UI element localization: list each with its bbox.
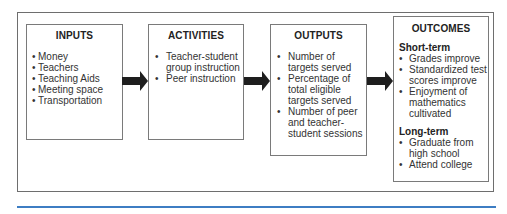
bullet-icon: • [32, 84, 36, 95]
long-term-heading: Long-term [399, 126, 488, 137]
bullet-icon: • [32, 62, 36, 73]
list-item: •Standardized test scores improve [399, 64, 488, 86]
bullet-icon: • [32, 73, 36, 84]
list-item: •Transportation [32, 95, 122, 106]
list-item: •Meeting space [32, 84, 122, 95]
bullet-icon: • [32, 51, 36, 62]
bullet-icon: • [399, 137, 403, 148]
list-item: •Teacher-student group instruction [155, 51, 243, 73]
bullet-icon: • [155, 73, 159, 84]
outcomes-title: OUTCOMES [394, 23, 488, 34]
list-item: •Enjoyment of mathematics cultivated [399, 86, 488, 119]
list-item: •Graduate from high school [399, 137, 488, 159]
bottom-rule [17, 206, 496, 208]
bullet-icon: • [399, 53, 403, 64]
activities-box: ACTIVITIES •Teacher-student group instru… [148, 24, 244, 140]
arrow-right-icon [367, 71, 393, 91]
outputs-list: •Number of targets served •Percentage of… [277, 51, 366, 139]
bullet-icon: • [277, 73, 281, 84]
list-item: •Number of peer and teacher-student sess… [277, 106, 366, 139]
list-item: •Money [32, 51, 122, 62]
list-item: •Attend college [399, 159, 488, 170]
list-item: •Peer instruction [155, 73, 243, 84]
outputs-title: OUTPUTS [271, 30, 366, 41]
inputs-title: INPUTS [27, 30, 122, 41]
list-item: •Number of targets served [277, 51, 366, 73]
bullet-icon: • [399, 159, 403, 170]
activities-list: •Teacher-student group instruction •Peer… [155, 51, 243, 84]
inputs-box: INPUTS •Money •Teachers •Teaching Aids •… [26, 24, 123, 140]
long-term-list: •Graduate from high school •Attend colle… [399, 137, 488, 170]
activities-title: ACTIVITIES [149, 30, 243, 41]
inputs-list: •Money •Teachers •Teaching Aids •Meeting… [32, 51, 122, 106]
list-item: •Percentage of total eligible targets se… [277, 73, 366, 106]
list-item: •Teaching Aids [32, 73, 122, 84]
arrow-right-icon [122, 71, 148, 91]
bullet-icon: • [399, 64, 403, 75]
outputs-box: OUTPUTS •Number of targets served •Perce… [270, 24, 367, 156]
short-term-list: •Grades improve •Standardized test score… [399, 53, 488, 119]
list-item: •Grades improve [399, 53, 488, 64]
bullet-icon: • [155, 51, 159, 62]
bullet-icon: • [277, 51, 281, 62]
list-item: •Teachers [32, 62, 122, 73]
bullet-icon: • [277, 106, 281, 117]
arrow-right-icon [244, 71, 270, 91]
outcomes-box: OUTCOMES Short-term •Grades improve •Sta… [393, 16, 489, 182]
bullet-icon: • [32, 95, 36, 106]
bullet-icon: • [399, 86, 403, 97]
short-term-heading: Short-term [399, 42, 488, 53]
